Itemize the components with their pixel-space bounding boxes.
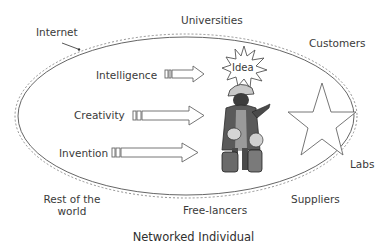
label-suppliers: Suppliers <box>291 193 340 205</box>
star-icon <box>288 83 356 155</box>
label-creativity: Creativity <box>74 109 125 121</box>
label-intelligence: Intelligence <box>96 69 157 81</box>
label-rest-of-world-line2: world <box>40 205 104 217</box>
label-universities: Universities <box>181 14 243 26</box>
label-rest-of-world-line1: Rest of the <box>40 193 104 205</box>
label-customers: Customers <box>309 37 365 49</box>
creativity-arrow-icon <box>133 106 204 125</box>
label-idea: Idea <box>232 62 254 74</box>
label-internet: Internet <box>36 26 78 38</box>
diagram-caption: Networked Individual <box>0 230 387 244</box>
label-invention: Invention <box>59 147 108 159</box>
person-clipart-icon <box>222 84 270 172</box>
invention-arrow-icon <box>112 143 198 162</box>
label-rest-of-world: Rest of the world <box>40 193 104 217</box>
intelligence-arrow-icon <box>165 66 204 82</box>
label-labs: Labs <box>350 158 374 170</box>
label-freelancers: Free-lancers <box>183 204 247 216</box>
internet-pointer-icon <box>62 43 80 51</box>
